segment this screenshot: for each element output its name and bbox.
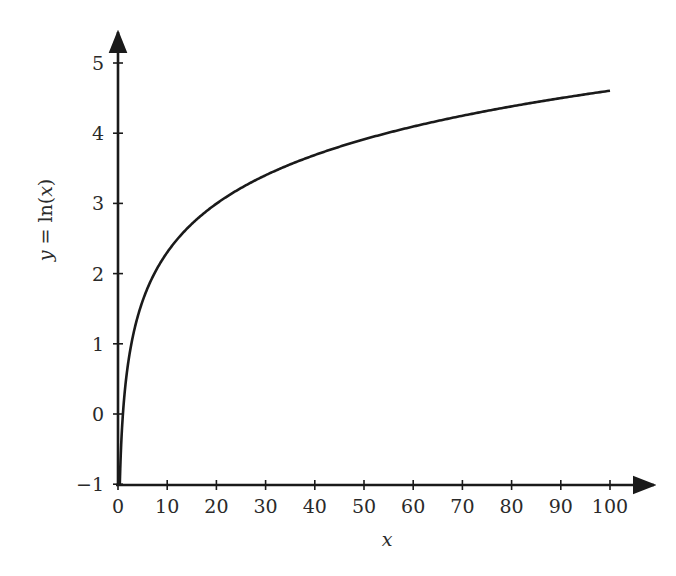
ln-curve [120, 91, 610, 484]
x-tick-label: 40 [303, 495, 327, 517]
x-tick-label: 100 [592, 495, 628, 517]
x-tick-label: 80 [500, 495, 524, 517]
y-axis-label: y = ln(x) [34, 179, 56, 263]
y-tick-label: 0 [92, 403, 104, 425]
axis-tick-labels: 0102030405060708090100−1012345 [76, 52, 628, 517]
y-tick-label: 5 [92, 52, 104, 74]
x-tick-label: 10 [155, 495, 179, 517]
y-tick-label: −1 [76, 473, 104, 495]
axis-ticks [113, 63, 610, 490]
x-tick-label: 60 [401, 495, 425, 517]
x-tick-label: 70 [450, 495, 474, 517]
x-tick-label: 90 [549, 495, 573, 517]
x-tick-label: 30 [254, 495, 278, 517]
ln-chart: 0102030405060708090100−1012345 x y = ln(… [0, 0, 676, 576]
x-tick-label: 50 [352, 495, 376, 517]
x-axis-label: x [382, 528, 393, 550]
y-tick-label: 1 [92, 333, 104, 355]
x-tick-label: 20 [204, 495, 228, 517]
y-tick-label: 3 [92, 192, 104, 214]
y-tick-label: 2 [92, 263, 104, 285]
y-tick-label: 4 [92, 122, 104, 144]
x-tick-label: 0 [112, 495, 124, 517]
